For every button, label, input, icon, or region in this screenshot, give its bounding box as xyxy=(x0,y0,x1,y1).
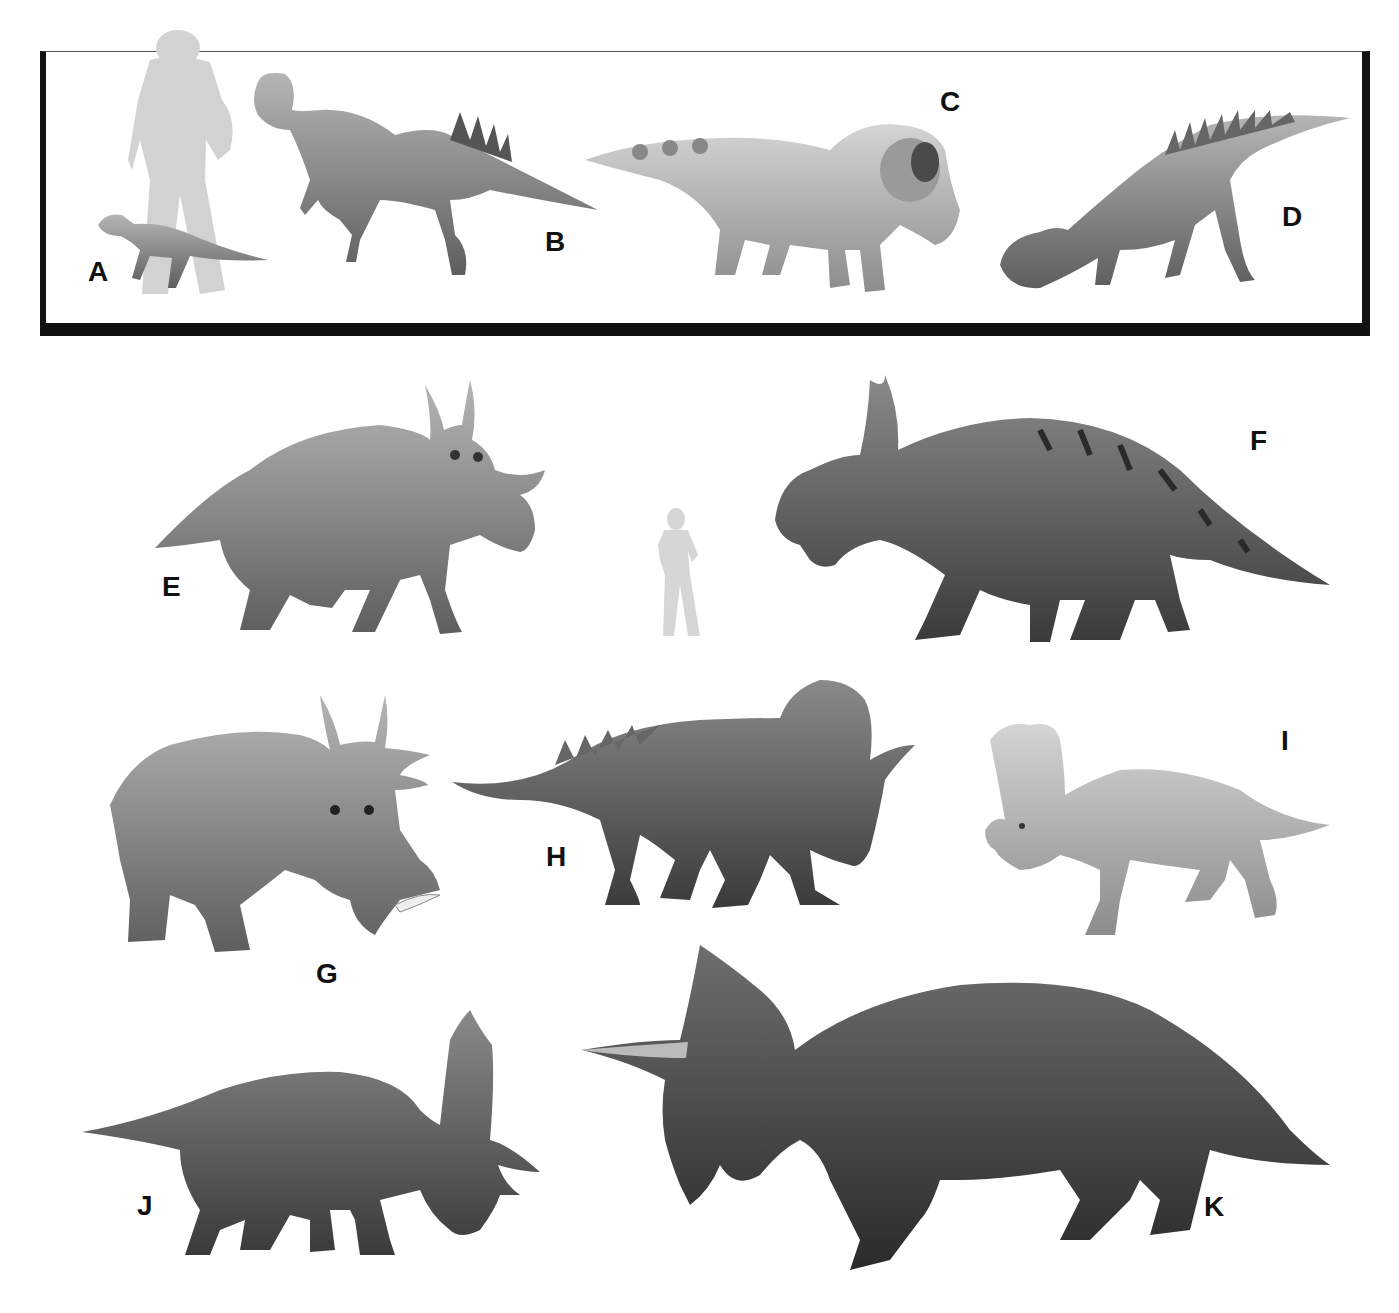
panel-label-b: B xyxy=(545,228,565,256)
panel-label-e: E xyxy=(162,573,181,601)
panel-label-c: C xyxy=(940,88,960,116)
panel-label-h: H xyxy=(546,843,566,871)
human-silhouette-small-icon xyxy=(658,508,700,636)
panel-label-f: F xyxy=(1250,427,1267,455)
dinosaur-size-figure: A B C D E F G H I J K xyxy=(0,0,1399,1313)
dinosaur-g-icon xyxy=(110,695,440,952)
panel-label-k: K xyxy=(1204,1193,1224,1221)
panel-label-d: D xyxy=(1282,203,1302,231)
dinosaur-i-icon xyxy=(985,724,1330,935)
dinosaur-a-icon xyxy=(98,214,268,288)
dinosaur-f-icon xyxy=(775,375,1330,642)
dinosaur-h-icon xyxy=(452,680,915,908)
panel-label-j: J xyxy=(137,1192,153,1220)
panel-label-g: G xyxy=(316,960,338,988)
dinosaur-c-icon xyxy=(585,124,960,292)
dinosaur-e-icon xyxy=(155,380,545,634)
illustration-layer xyxy=(0,0,1399,1313)
panel-label-a: A xyxy=(88,258,108,286)
dinosaur-d-icon xyxy=(1000,110,1350,288)
panel-label-i: I xyxy=(1281,727,1289,755)
